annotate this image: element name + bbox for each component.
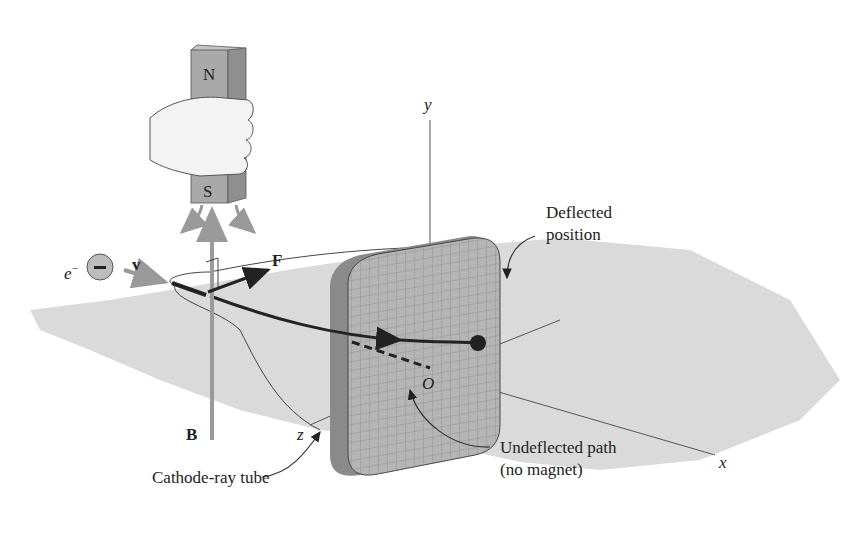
undeflected-label-line1: Undeflected path (500, 438, 617, 457)
velocity-arrow (124, 270, 165, 282)
field-lines (182, 205, 254, 232)
tube-label: Cathode-ray tube (152, 468, 270, 487)
force-label: F (272, 251, 282, 270)
magnet-north-label: N (203, 65, 215, 84)
field-label: B (186, 425, 197, 444)
x-axis-label: x (719, 453, 727, 472)
screen (330, 236, 500, 476)
magnet-south-label: S (203, 182, 212, 201)
z-axis-label: z (297, 425, 304, 444)
deflected-label-line2: position (546, 225, 601, 244)
electron-minus-icon (94, 266, 106, 269)
undeflected-label-line2: (no magnet) (500, 460, 583, 479)
electron-label: e− (64, 259, 79, 283)
hand-icon (150, 97, 253, 176)
deflected-label-line1: Deflected (546, 203, 612, 222)
deflected-spot (470, 335, 486, 351)
velocity-label: v (132, 255, 141, 274)
origin-label: O (422, 374, 434, 393)
y-axis-label: y (424, 95, 432, 114)
